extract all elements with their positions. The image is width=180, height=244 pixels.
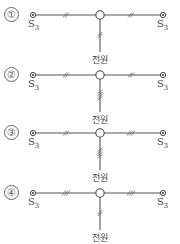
option-4: ④ S3 S3 전원 xyxy=(0,178,180,238)
left-switch-label: S3 xyxy=(28,18,39,32)
option-3: ③ S3 S3 전원 xyxy=(0,118,180,178)
option-number: ② xyxy=(4,67,19,82)
option-2: ② S3 S3 전원 xyxy=(0,60,180,120)
right-switch-label: S3 xyxy=(157,136,168,150)
left-switch-label: S3 xyxy=(28,78,39,92)
right-switch-label: S3 xyxy=(157,196,168,210)
circuit-drawing xyxy=(0,118,180,178)
circuit-drawing xyxy=(0,60,180,120)
right-switch-label: S3 xyxy=(157,18,168,32)
option-number: ① xyxy=(4,7,19,22)
option-1: ① S3 S3 전원 xyxy=(0,0,180,60)
left-switch-label: S3 xyxy=(28,196,39,210)
circuit-drawing xyxy=(0,178,180,238)
right-switch-label: S3 xyxy=(157,78,168,92)
option-number: ③ xyxy=(4,125,19,140)
power-source-label: 전원 xyxy=(85,231,115,244)
option-number: ④ xyxy=(4,185,19,200)
circuit-drawing xyxy=(0,0,180,60)
left-switch-label: S3 xyxy=(28,136,39,150)
